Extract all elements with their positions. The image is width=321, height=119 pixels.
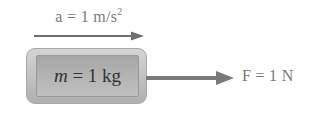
force-arrow-icon (146, 70, 236, 86)
acceleration-arrow-icon (33, 31, 145, 41)
accel-unit: m/s (93, 8, 117, 25)
mass-symbol: m (54, 65, 68, 87)
accel-equals: = (67, 8, 76, 25)
mass-block-label: m = 1 kg (36, 55, 139, 97)
accel-value: 1 (81, 8, 89, 25)
accel-exponent: 2 (117, 6, 122, 17)
mass-equals: = (72, 65, 83, 87)
accel-symbol: a (55, 8, 62, 25)
force-label: F = 1 N (242, 67, 294, 85)
mass-block: m = 1 kg (26, 48, 147, 104)
mass-value: 1 kg (88, 65, 121, 87)
acceleration-label: a = 1 m/s2 (36, 6, 142, 26)
